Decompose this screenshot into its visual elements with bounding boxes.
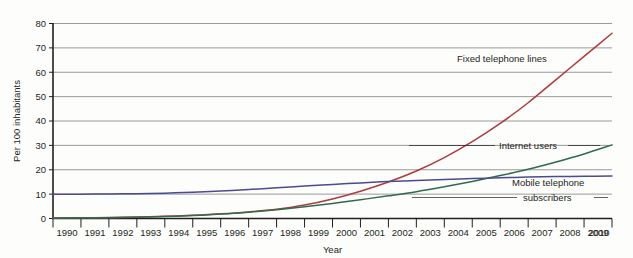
y-tick-label: 60 (35, 67, 46, 78)
x-tick-label: 2007 (532, 227, 553, 238)
y-tick-label: 80 (35, 18, 46, 29)
x-tick-label: 1999 (308, 227, 329, 238)
x-tick-label: 2002 (392, 227, 413, 238)
y-tick-label: 50 (35, 91, 46, 102)
x-tick-label: 2004 (448, 227, 469, 238)
x-tick-label: 1998 (280, 227, 301, 238)
x-tick-label: 1994 (168, 227, 189, 238)
y-tick-label: 10 (35, 189, 46, 200)
y-tick-label: 20 (35, 164, 46, 175)
x-tick-label: 1996 (224, 227, 245, 238)
y-tick-label: 70 (35, 42, 46, 53)
x-tick-label: 2000 (336, 227, 357, 238)
x-tick-label: 1991 (84, 227, 105, 238)
x-tick-label: 2010 (588, 227, 609, 238)
x-tick-label: 2008 (560, 227, 581, 238)
y-axis-tick-labels: 01020304050607080 (35, 18, 46, 224)
x-tick-label: 1992 (112, 227, 133, 238)
y-tick-label: 30 (35, 140, 46, 151)
y-tick-label: 40 (35, 115, 46, 126)
line-chart: 01020304050607080 1990199119921993199419… (0, 0, 633, 258)
annotation-fixed-telephone-lines: Fixed telephone lines (457, 53, 547, 64)
chart-container: 01020304050607080 1990199119921993199419… (0, 0, 633, 258)
y-axis-title: Per 100 inhabitants (11, 80, 22, 162)
x-tick-label: 2001 (364, 227, 385, 238)
x-axis-tick-labels: 1990199119921993199419951996199719981999… (56, 227, 609, 238)
x-tick-label: 1995 (196, 227, 217, 238)
x-tick-label: 1990 (56, 227, 77, 238)
x-tick-label: 2006 (504, 227, 525, 238)
x-axis-title: Year (323, 244, 342, 255)
x-tick-label: 2003 (420, 227, 441, 238)
annotation-mobile-telephone: Mobile telephone (512, 177, 584, 188)
x-axis-tickmarks (53, 219, 612, 228)
annotation-internet-users: Internet users (499, 140, 557, 151)
annotation-mobile-subscribers: subscribers (523, 192, 572, 203)
x-tick-label: 2005 (476, 227, 497, 238)
x-tick-label: 1993 (140, 227, 161, 238)
y-tick-label: 0 (41, 213, 46, 224)
series-annotations: Fixed telephone linesInternet usersMobil… (409, 53, 608, 203)
x-tick-label: 1997 (252, 227, 273, 238)
